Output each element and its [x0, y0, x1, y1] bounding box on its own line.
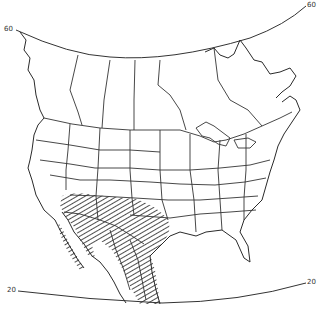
latitude-label-20-left: 20 — [7, 286, 16, 294]
state-border — [218, 140, 222, 230]
province-border — [158, 60, 186, 130]
state-border — [66, 124, 70, 190]
species-range — [60, 193, 169, 304]
latitude-label-20-right: 20 — [307, 278, 316, 286]
great-lakes — [234, 138, 256, 148]
latitude-60-line — [16, 6, 306, 58]
state-border — [190, 134, 196, 232]
province-border — [70, 55, 82, 125]
us-canada-border — [44, 112, 292, 142]
province-border — [102, 60, 110, 128]
latitude-label-60-left: 60 — [4, 25, 13, 33]
latitude-label-60-right: 60 — [307, 1, 316, 9]
state-border — [160, 130, 168, 220]
map-canvas — [0, 0, 324, 311]
province-border — [134, 60, 135, 130]
state-border — [50, 175, 266, 185]
state-border — [244, 134, 246, 220]
hudson-bay-coast — [205, 40, 296, 98]
latitude-20-line — [18, 283, 306, 303]
state-border — [40, 160, 270, 170]
state-border — [36, 140, 160, 152]
great-lakes — [196, 122, 230, 146]
range-map: 60 60 20 20 — [0, 0, 324, 311]
